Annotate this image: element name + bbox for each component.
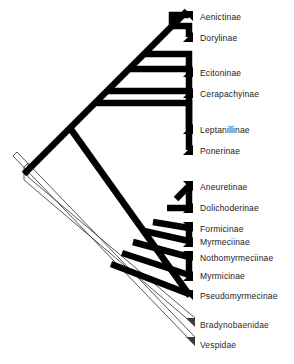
tip-label-cerapachyinae: Cerapachyinae xyxy=(200,90,259,99)
tip-label-ponerinae: Ponerinae xyxy=(200,147,240,156)
tip-cap-vespidae xyxy=(186,337,195,346)
branch-ponerinae xyxy=(95,103,189,150)
branch-dorylinae xyxy=(172,26,189,37)
phylogeny-figure: Aenictinae Dorylinae Ecitoninae Cerapach… xyxy=(0,0,294,364)
tip-label-dorylinae: Dorylinae xyxy=(200,34,237,43)
tip-label-formicinae: Formicinae xyxy=(200,225,244,234)
tip-label-dolichoderinae: Dolichoderinae xyxy=(200,204,259,213)
tip-label-bradynobaenidae: Bradynobaenidae xyxy=(200,321,269,330)
tip-label-nothomyrmeciinae: Nothomyrmeciinae xyxy=(200,254,273,263)
tip-label-aenictinae: Aenictinae xyxy=(200,13,241,22)
tip-label-leptanillinae: Leptanillinae xyxy=(200,126,250,135)
branch-formicinae xyxy=(153,222,189,228)
tip-label-pseudomyrmecinae: Pseudomyrmecinae xyxy=(200,292,278,301)
tip-label-myrmeciinae: Myrmeciinae xyxy=(200,238,250,247)
tip-label-myrmicinae: Myrmicinae xyxy=(200,272,245,281)
branch-leptanillinae xyxy=(107,91,189,129)
cladogram-canvas xyxy=(0,0,294,364)
tip-label-aneuretinae: Aneuretinae xyxy=(200,183,248,192)
tip-cap-bradynobaenidae xyxy=(186,318,195,327)
tip-label-vespidae: Vespidae xyxy=(200,341,236,350)
tip-label-ecitoninae: Ecitoninae xyxy=(200,69,241,78)
